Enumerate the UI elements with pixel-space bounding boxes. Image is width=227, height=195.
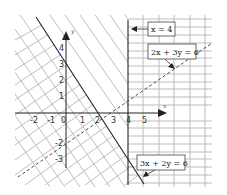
callout-3x-2y-6: 3x + 2y = 6 <box>137 155 188 177</box>
y-tick-labels: 4 3 2 1 -2 -3 <box>55 44 64 164</box>
label-3x-2y-6: 3x + 2y = 6 <box>140 159 188 168</box>
y-tick: -3 <box>55 155 63 164</box>
y-axis-name: y <box>70 27 75 35</box>
y-tick: -2 <box>55 139 63 148</box>
x-tick: 0 <box>61 116 66 125</box>
y-tick: 1 <box>59 92 64 101</box>
y-axis-arrow-icon <box>62 31 70 40</box>
x-tick: 3 <box>111 116 116 125</box>
y-tick: 3 <box>59 60 64 69</box>
x-tick: -1 <box>47 116 55 125</box>
callout-2x-3y-6: 2x + 3y = 6 <box>148 44 199 69</box>
y-tick: 2 <box>59 76 64 85</box>
x-tick-labels: -2 -1 0 1 2 3 4 5 <box>30 116 147 125</box>
x-tick: 1 <box>80 116 85 125</box>
label-2x-3y-6: 2x + 3y = 6 <box>151 48 199 57</box>
y-tick: 4 <box>59 44 64 53</box>
callout-x-eq-4: x = 4 <box>131 22 175 36</box>
hatch-layer <box>0 15 227 187</box>
x-axis-arrow-icon <box>158 109 167 117</box>
label-x-eq-4: x = 4 <box>151 25 172 34</box>
x-tick: 5 <box>142 116 147 125</box>
x-tick: -2 <box>30 116 38 125</box>
graph: x y -2 -1 0 1 2 3 4 5 4 3 2 1 -2 -3 x = … <box>0 0 227 195</box>
